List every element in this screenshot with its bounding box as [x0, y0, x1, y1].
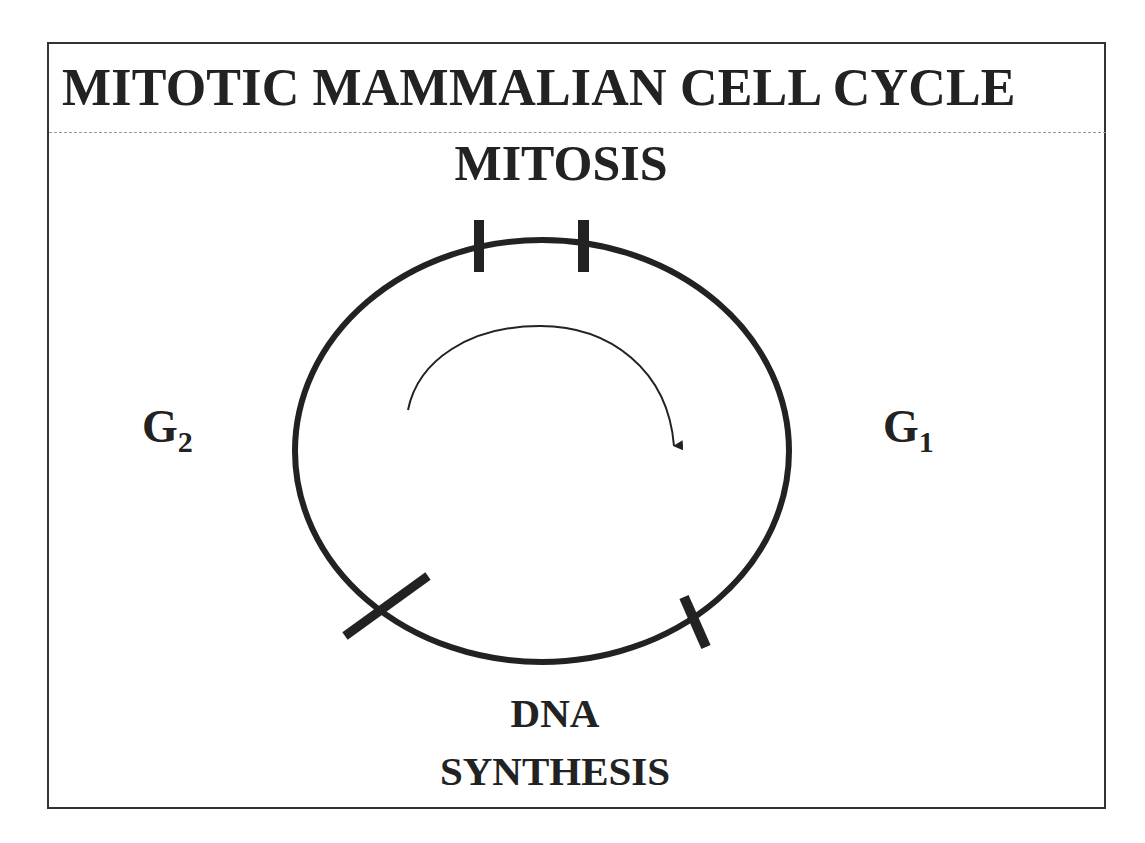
- title-divider: [49, 132, 1106, 133]
- phase-g2-letter: G: [142, 401, 178, 452]
- phase-g2-subscript: 2: [178, 425, 193, 458]
- phase-label-synthesis: SYNTHESIS: [380, 748, 730, 794]
- slide-title: MITOTIC MAMMALIAN CELL CYCLE: [62, 58, 1042, 118]
- phase-label-dna: DNA: [400, 690, 710, 736]
- phase-label-mitosis: MITOSIS: [400, 136, 722, 190]
- phase-label-g2: G2: [142, 402, 193, 452]
- phase-g1-subscript: 1: [919, 425, 934, 458]
- phase-label-g1: G1: [883, 402, 934, 452]
- phase-g1-letter: G: [883, 401, 919, 452]
